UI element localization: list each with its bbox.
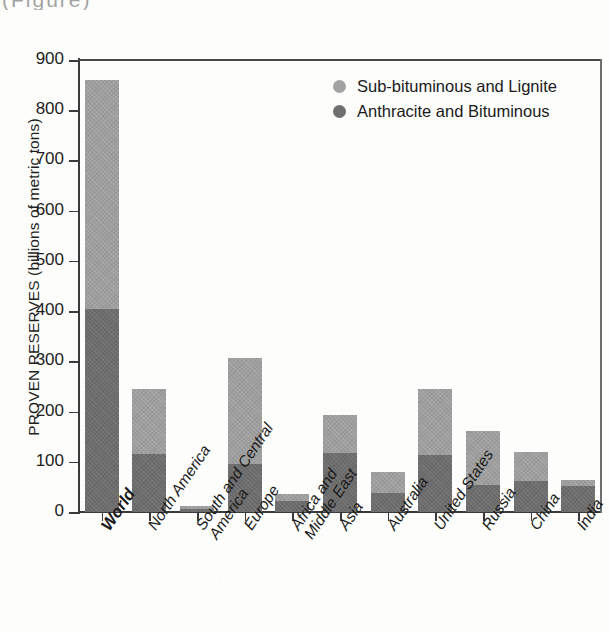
plot-area: [78, 60, 602, 512]
y-axis-tick-label: 900: [36, 49, 64, 69]
y-axis-tick-label: 300: [36, 350, 64, 370]
y-axis-tick-mark: [69, 110, 78, 112]
legend-swatch-circle-icon: [333, 80, 346, 93]
y-axis-tick-mark: [69, 412, 78, 414]
chart-figure: (Figure) PROVEN RESERVES (billions of me…: [0, 0, 610, 632]
bar-segment-sub-bituminous-lignite: [132, 389, 166, 454]
bar-segment-sub-bituminous-lignite: [514, 452, 548, 481]
bar-segment-sub-bituminous-lignite: [85, 80, 119, 309]
bar-segment-sub-bituminous-lignite: [561, 480, 595, 486]
legend-label: Sub-bituminous and Lignite: [357, 77, 557, 96]
y-axis-tick-label: 600: [36, 200, 64, 220]
y-axis-tick-label: 200: [36, 401, 64, 421]
bar-segment-anthracite-bituminous: [85, 309, 119, 512]
y-axis-tick-label: 400: [36, 300, 64, 320]
y-axis-tick-label: 500: [36, 250, 64, 270]
bar-segment-sub-bituminous-lignite: [418, 389, 452, 455]
y-axis-tick-mark: [69, 361, 78, 363]
bar-segment-sub-bituminous-lignite: [323, 415, 357, 453]
legend-swatch-circle-icon: [333, 105, 346, 118]
legend-label: Anthracite and Bituminous: [357, 102, 550, 121]
legend-item[interactable]: Anthracite and Bituminous: [333, 99, 557, 124]
y-axis-tick-label: 100: [36, 451, 64, 471]
bar-north-america[interactable]: [132, 389, 166, 512]
y-axis-tick-label: 700: [36, 149, 64, 169]
y-axis-tick-mark: [69, 512, 78, 514]
bar-world[interactable]: [85, 80, 119, 512]
bar-segment-sub-bituminous-lignite: [371, 472, 405, 493]
legend-item[interactable]: Sub-bituminous and Lignite: [333, 74, 557, 99]
chart-legend: Sub-bituminous and LigniteAnthracite and…: [333, 74, 557, 124]
y-axis-tick-label: 800: [36, 99, 64, 119]
caption-fragment: (Figure): [2, 0, 222, 10]
y-axis-tick-mark: [69, 60, 78, 62]
y-axis-tick-mark: [69, 261, 78, 263]
y-axis-title: PROVEN RESERVES (billions of metric tons…: [25, 57, 43, 497]
y-axis-tick-mark: [69, 462, 78, 464]
y-axis-tick-mark: [69, 160, 78, 162]
y-axis-tick-mark: [69, 311, 78, 313]
y-axis-tick-label: 0: [55, 501, 64, 521]
y-axis-tick-mark: [69, 211, 78, 213]
